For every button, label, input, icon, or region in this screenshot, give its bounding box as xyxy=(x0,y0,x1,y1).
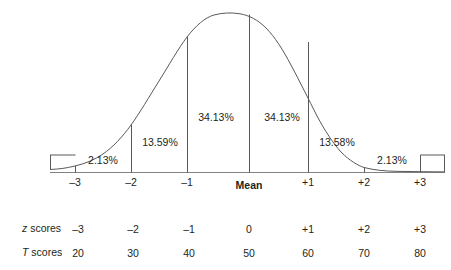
normal-curve-figure: 2.13% 13.59% 34.13% 34.13% 13.58% 2.13% … xyxy=(0,0,451,270)
axis-tick-label-minus1: –1 xyxy=(181,177,193,188)
t-score-value-2: 40 xyxy=(183,247,195,259)
t-score-value-0: 20 xyxy=(72,247,84,259)
axis-tick-label-minus3: –3 xyxy=(69,177,81,188)
t-score-value-3: 50 xyxy=(243,247,255,259)
t-scores-row-label: T scores xyxy=(22,247,62,258)
percent-label-neg1-mean: 34.13% xyxy=(198,112,234,123)
z-score-value-1: –2 xyxy=(127,223,139,235)
bell-curve-graphic xyxy=(0,0,451,200)
z-score-value-2: –1 xyxy=(183,223,195,235)
axis-tick-label-plus2: +2 xyxy=(358,177,370,188)
percent-label-pos2-pos3: 2.13% xyxy=(377,155,407,166)
z-score-value-4: +1 xyxy=(302,223,314,235)
normal-curve-path xyxy=(50,13,445,172)
percent-label-pos1-pos2: 13.58% xyxy=(319,137,355,148)
z-score-value-0: –3 xyxy=(72,223,84,235)
axis-tick-label-plus3: +3 xyxy=(414,177,426,188)
t-score-value-1: 30 xyxy=(127,247,139,259)
t-scores-row-label-text: scores xyxy=(28,246,62,258)
t-score-value-4: 60 xyxy=(302,247,314,259)
z-score-value-3: 0 xyxy=(246,223,252,235)
percent-label-neg3-neg2: 2.13% xyxy=(88,155,118,166)
z-scores-row-label: z scores xyxy=(22,223,61,234)
percent-label-mean-pos1: 34.13% xyxy=(264,112,300,123)
z-score-value-5: +2 xyxy=(358,223,370,235)
axis-tick-label-plus1: +1 xyxy=(302,177,314,188)
t-score-value-6: 80 xyxy=(414,247,426,259)
t-score-value-5: 70 xyxy=(358,247,370,259)
axis-tick-label-minus2: –2 xyxy=(125,177,137,188)
z-score-value-6: +3 xyxy=(414,223,426,235)
percent-label-neg2-neg1: 13.59% xyxy=(142,137,178,148)
axis-tick-label-mean: Mean xyxy=(236,180,263,191)
z-scores-row-label-text: scores xyxy=(27,222,61,234)
